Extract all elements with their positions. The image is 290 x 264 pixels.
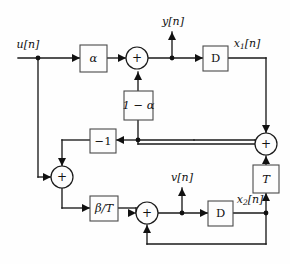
block-gain-beta-over-t[interactable]: β/T xyxy=(90,196,118,221)
block-gain-t-label: T xyxy=(262,172,271,186)
arrowhead-into-alpha xyxy=(72,54,80,62)
node-dot-feedback-bus-tap xyxy=(136,138,141,143)
node-dot-layer xyxy=(36,56,269,216)
diagram-canvas: α D 1 − α −1 β/T T xyxy=(0,0,290,264)
arrowhead-v-output xyxy=(178,188,186,196)
summing-junction-top[interactable]: + xyxy=(126,47,148,69)
block-delay-1-label: D xyxy=(211,51,220,65)
summing-junction-bottom[interactable]: + xyxy=(136,202,158,224)
block-gain-negative-one-label: −1 xyxy=(95,134,112,148)
node-dot-v-tap xyxy=(180,211,185,216)
arrowhead-into-negone xyxy=(116,136,124,144)
arrowhead-into-sumbottom-bottom xyxy=(143,225,151,233)
arrowhead-into-betaT xyxy=(82,204,90,212)
block-diagram-figure: α D 1 − α −1 β/T T xyxy=(0,0,290,264)
node-dot-output-y-tap xyxy=(170,56,175,61)
arrowhead-into-sumright-top xyxy=(262,125,270,133)
summing-junction-right[interactable]: + xyxy=(255,133,277,155)
arrowhead-into-sumtop xyxy=(118,54,126,62)
label-signal-v: v[n] xyxy=(171,171,194,184)
node-dot-input-tap xyxy=(36,56,41,61)
summing-junction-bottom-sign: + xyxy=(142,206,152,220)
label-state-x1: x1[n] xyxy=(234,37,261,51)
label-input-u: u[n] xyxy=(17,38,40,51)
label-output-y: y[n] xyxy=(161,15,185,28)
block-gain-beta-over-t-label: β/T xyxy=(94,201,115,215)
arrowhead-into-sumbottom xyxy=(128,209,136,217)
arrowhead-into-sumtop-bottom xyxy=(134,72,142,80)
block-gain-t[interactable]: T xyxy=(253,165,279,193)
arrowhead-into-delay2 xyxy=(200,209,208,217)
block-delay-2-label: D xyxy=(216,206,225,220)
block-gain-negative-one[interactable]: −1 xyxy=(90,129,116,153)
block-gain-one-minus-alpha[interactable]: 1 − α xyxy=(122,91,154,120)
arrowhead-into-delay1 xyxy=(195,54,203,62)
arrowhead-into-sumleft-left xyxy=(43,173,51,181)
summing-junction-right-sign: + xyxy=(261,137,271,151)
summing-junction-top-sign: + xyxy=(132,51,142,65)
summing-junction-left[interactable]: + xyxy=(51,166,73,188)
arrowhead-y-output xyxy=(168,32,176,40)
block-gain-one-minus-alpha-label: 1 − α xyxy=(122,98,154,112)
node-dot-x2-tap xyxy=(264,211,269,216)
label-state-x2: x2[n] xyxy=(237,193,264,207)
block-gain-alpha-label: α xyxy=(90,51,98,65)
label-state-x2-tail: [n] xyxy=(248,193,264,206)
block-gain-alpha[interactable]: α xyxy=(80,45,107,72)
label-state-x1-tail: [n] xyxy=(245,37,261,50)
block-delay-1[interactable]: D xyxy=(203,46,228,71)
arrowhead-into-sumright-bottom xyxy=(262,156,270,164)
summing-junction-left-sign: + xyxy=(57,170,67,184)
arrowhead-into-sumleft-top xyxy=(58,158,66,166)
block-delay-2[interactable]: D xyxy=(208,201,233,226)
